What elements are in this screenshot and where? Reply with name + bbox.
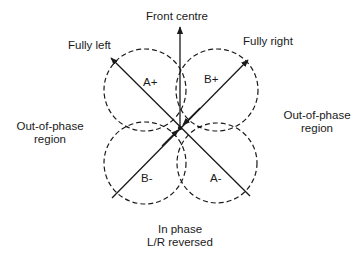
region-line-1: In phase (140, 223, 220, 236)
centre-arrow-from-b-minus (162, 130, 178, 146)
lobe-b-minus-label: B- (141, 172, 153, 184)
origin-dot (178, 126, 182, 130)
region-line-2: L/R reversed (140, 236, 220, 249)
left-out-of-phase-region-label: Out-of-phase region (11, 120, 89, 146)
fully-left-label: Fully left (68, 39, 111, 52)
lobe-a-plus-circle (104, 49, 186, 131)
fully-right-label: Fully right (243, 35, 293, 48)
region-line-1: Out-of-phase (278, 109, 356, 122)
region-line-2: region (11, 133, 89, 146)
in-phase-reversed-region-label: In phase L/R reversed (140, 223, 220, 249)
lobe-b-plus-circle (176, 49, 258, 131)
lobe-a-plus-label: A+ (143, 76, 157, 88)
front-centre-label: Front centre (146, 10, 208, 23)
lobe-a-minus-label: A- (210, 172, 222, 184)
right-out-of-phase-region-label: Out-of-phase region (278, 109, 356, 135)
region-line-2: region (278, 122, 356, 135)
lobe-b-plus-label: B+ (204, 73, 218, 85)
region-line-1: Out-of-phase (11, 120, 89, 133)
